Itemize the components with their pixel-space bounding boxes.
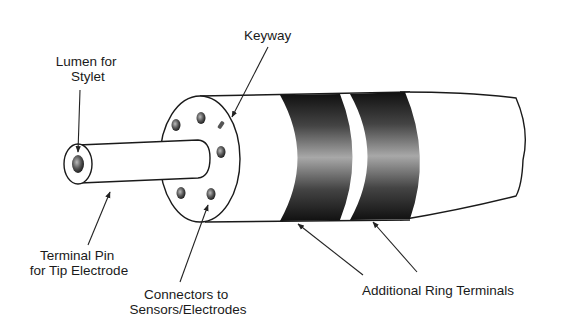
ring-terminal-leader-2 xyxy=(373,222,417,272)
lumen-leader xyxy=(78,90,80,152)
connector-hole xyxy=(197,112,206,124)
terminal-pin-leader xyxy=(88,192,110,245)
connector-hole xyxy=(207,188,216,200)
connector-hole xyxy=(172,119,181,131)
label-lumen: Lumen for Stylet xyxy=(56,54,121,84)
terminal-pin xyxy=(78,140,210,183)
label-connectors: Connectors to Sensors/Electrodes xyxy=(129,287,246,317)
label-terminal-pin: Terminal Pin for Tip Electrode xyxy=(30,248,128,278)
label-terminal-pin-line2: for Tip Electrode xyxy=(30,263,128,278)
stylet-lumen xyxy=(72,155,84,173)
connector-hole xyxy=(217,146,226,158)
connector-diagram: Lumen for Stylet Keyway Terminal Pin for… xyxy=(0,0,562,328)
connector-hole xyxy=(177,187,186,199)
ring-terminal-leader-1 xyxy=(298,224,363,275)
label-ring-terminals: Additional Ring Terminals xyxy=(362,283,514,298)
label-terminal-pin-line1: Terminal Pin xyxy=(40,248,114,263)
label-lumen-line2: Stylet xyxy=(71,69,105,84)
label-connectors-line1: Connectors to xyxy=(144,287,228,302)
label-keyway: Keyway xyxy=(244,28,292,43)
label-connectors-line2: Sensors/Electrodes xyxy=(129,302,246,317)
label-lumen-line1: Lumen for xyxy=(56,54,117,69)
